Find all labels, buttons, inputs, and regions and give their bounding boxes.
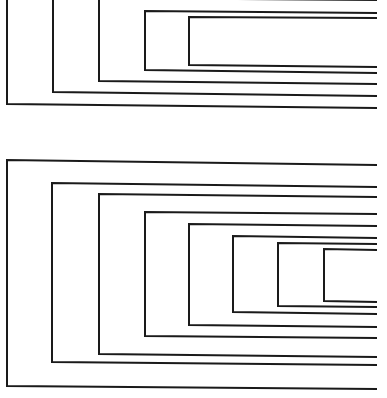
nested-brackets-diagram: [0, 0, 387, 398]
